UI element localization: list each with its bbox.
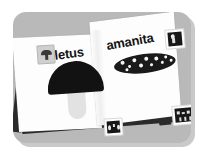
amanita-spot bbox=[132, 58, 136, 62]
amanita-cap-body bbox=[113, 50, 177, 76]
illustration-canvas: boletus amanita bbox=[0, 0, 210, 159]
amanita-spot bbox=[150, 63, 153, 66]
specimen-photo-icon-top-right[interactable] bbox=[164, 28, 186, 50]
photo-speck bbox=[177, 111, 180, 114]
photo-speck bbox=[172, 38, 175, 43]
photo-speck bbox=[108, 125, 111, 130]
amanita-spot bbox=[125, 68, 128, 71]
specimen-photo-icon-bottom-right[interactable] bbox=[171, 104, 191, 126]
mini-mushroom-stem bbox=[44, 54, 47, 60]
amanita-spot bbox=[154, 56, 158, 60]
mini-mushroom-glyph bbox=[40, 49, 52, 61]
photo-speck bbox=[182, 112, 185, 114]
amanita-spot bbox=[144, 57, 148, 61]
photo-speck bbox=[113, 124, 115, 127]
photo-speck bbox=[184, 117, 186, 121]
specimen-photo-thumbnail bbox=[174, 107, 191, 122]
photo-speck bbox=[179, 117, 181, 121]
photo-speck bbox=[187, 110, 190, 113]
amanita-spot bbox=[120, 60, 124, 64]
specimen-photo-icon-bottom-center[interactable] bbox=[103, 117, 123, 136]
amanita-spot bbox=[128, 65, 131, 68]
mushroom-thumb-icon[interactable] bbox=[36, 44, 55, 64]
boletus-cap bbox=[46, 59, 104, 95]
open-book: boletus amanita bbox=[13, 12, 191, 143]
amanita-spot bbox=[161, 61, 164, 64]
amanita-spot bbox=[164, 55, 167, 58]
specimen-photo-thumbnail bbox=[107, 121, 121, 134]
photo-speck bbox=[189, 116, 191, 120]
specimen-photo-thumbnail bbox=[167, 31, 182, 46]
photo-speck bbox=[117, 125, 120, 130]
amanita-spot bbox=[139, 63, 143, 67]
boletus-mushroom-illustration bbox=[44, 57, 110, 123]
amanita-spot bbox=[169, 59, 172, 62]
